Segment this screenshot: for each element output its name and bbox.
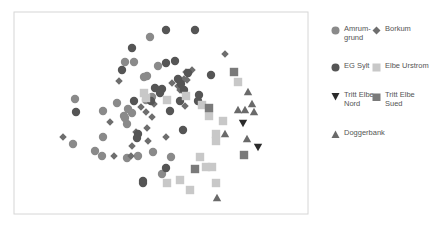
data-point-eg-sylt	[133, 134, 141, 142]
data-point-eg-sylt	[139, 179, 147, 187]
data-point-elbe-urstrom	[142, 94, 150, 102]
data-point-elbe-urstrom	[163, 96, 171, 104]
data-point-elbe-urstrom	[208, 163, 216, 171]
data-point-eg-sylt	[179, 126, 187, 134]
data-point-amrum-grund	[123, 120, 131, 128]
data-point-elbe-urstrom	[182, 92, 190, 100]
data-point-amrum-grund	[134, 152, 142, 160]
data-point-eg-sylt	[177, 80, 185, 88]
data-point-tritt-elbe-sued	[230, 68, 238, 76]
data-point-tritt-elbe-sued	[191, 165, 199, 173]
data-point-amrum-grund	[146, 33, 154, 41]
data-point-eg-sylt	[130, 97, 138, 105]
data-point-eg-sylt	[191, 26, 199, 34]
data-point-elbe-urstrom	[176, 176, 184, 184]
data-point-elbe-urstrom	[212, 137, 220, 145]
data-point-elbe-urstrom	[186, 186, 194, 194]
plot-frame	[14, 12, 308, 214]
data-point-amrum-grund	[113, 99, 121, 107]
data-point-amrum-grund	[69, 140, 77, 148]
data-point-amrum-grund	[140, 73, 148, 81]
data-point-amrum-grund	[99, 133, 107, 141]
data-point-eg-sylt	[171, 57, 179, 65]
data-point-eg-sylt	[166, 107, 174, 115]
data-point-amrum-grund	[99, 107, 107, 115]
data-point-amrum-grund	[98, 152, 106, 160]
data-point-elbe-urstrom	[234, 78, 242, 86]
data-point-eg-sylt	[128, 44, 136, 52]
data-point-eg-sylt	[118, 66, 126, 74]
data-point-amrum-grund	[128, 109, 136, 117]
data-point-eg-sylt	[162, 59, 170, 67]
scatter-plot	[0, 0, 442, 225]
data-point-tritt-elbe-sued	[205, 104, 213, 112]
data-point-elbe-urstrom	[212, 179, 220, 187]
data-point-amrum-grund	[121, 58, 129, 66]
data-point-elbe-urstrom	[205, 112, 213, 120]
data-point-elbe-urstrom	[196, 153, 204, 161]
data-point-eg-sylt	[162, 164, 170, 172]
data-point-eg-sylt	[162, 26, 170, 34]
data-point-amrum-grund	[91, 147, 99, 155]
data-point-tritt-elbe-sued	[240, 151, 248, 159]
data-point-amrum-grund	[130, 58, 138, 66]
data-point-elbe-urstrom	[163, 179, 171, 187]
data-point-amrum-grund	[71, 95, 79, 103]
data-point-amrum-grund	[154, 62, 162, 70]
data-point-eg-sylt	[72, 108, 80, 116]
data-point-eg-sylt	[184, 69, 192, 77]
data-point-amrum-grund	[149, 148, 157, 156]
data-point-amrum-grund	[167, 153, 175, 161]
data-point-eg-sylt	[207, 71, 215, 79]
data-point-elbe-urstrom	[219, 117, 227, 125]
